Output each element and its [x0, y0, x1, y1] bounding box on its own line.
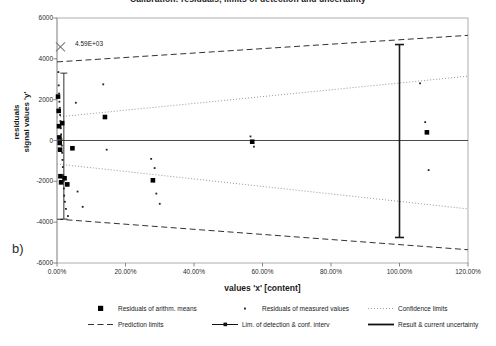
legend-item-label: Residuals of arithm. means: [118, 305, 197, 312]
band-dotted-lower: [57, 164, 468, 209]
legend-item-label: Prediction limits: [118, 321, 164, 328]
dot-marker-icon: [232, 304, 258, 313]
data-point-arithmetic-mean: [58, 147, 63, 152]
chart-legend: Residuals of arithm. meansResiduals of m…: [0, 303, 496, 337]
legend-item-label: Lim. of detection & conf. interv: [242, 321, 329, 328]
data-point-measured-value: [428, 169, 430, 171]
data-point-measured-value: [62, 166, 64, 168]
data-point-measured-value: [64, 201, 66, 203]
legend-item[interactable]: Residuals of arithm. means: [88, 304, 197, 313]
legend-item[interactable]: Prediction limits: [88, 320, 164, 329]
data-point-measured-value: [59, 114, 61, 116]
legend-item-label: Confidence limits: [398, 305, 448, 312]
data-point-measured-value: [57, 71, 59, 73]
data-point-arithmetic-mean: [103, 115, 108, 120]
data-point-measured-value: [65, 208, 67, 210]
y-axis-tick-label: 4000: [19, 55, 53, 62]
y-axis-tick-label: 6000: [19, 14, 53, 21]
y-axis-tick-label: -4000: [19, 218, 53, 225]
data-point-measured-value: [419, 82, 421, 84]
data-point-arithmetic-mean: [62, 176, 67, 181]
x-axis-tick-label: 120.00%: [442, 268, 494, 275]
dashed-line-icon: [88, 320, 114, 329]
capped-line-icon: [212, 320, 238, 329]
chart-figure: Calibration: residuals, limits of detect…: [0, 0, 496, 346]
band-dashed-upper: [57, 35, 468, 62]
data-point-measured-value: [61, 152, 63, 154]
data-point-arithmetic-mean: [58, 174, 63, 179]
data-point-measured-value: [77, 191, 79, 193]
legend-item[interactable]: Lim. of detection & conf. interv: [212, 320, 329, 329]
data-point-measured-value: [58, 84, 60, 86]
data-point-arithmetic-mean: [250, 139, 255, 144]
data-point-measured-value: [67, 215, 69, 217]
y-axis-tick-label: 2000: [19, 96, 53, 103]
data-point-measured-value: [75, 102, 77, 104]
x-axis-tick-label: 100.00%: [374, 268, 426, 275]
x-axis-tick-label: 0.00%: [31, 268, 83, 275]
data-point-measured-value: [106, 149, 108, 151]
data-point-measured-value: [63, 188, 65, 190]
data-point-measured-value: [159, 203, 161, 205]
data-point-measured-value: [60, 127, 62, 129]
data-point-arithmetic-mean: [425, 130, 430, 135]
band-dotted-upper: [57, 76, 468, 117]
data-point-measured-value: [62, 174, 64, 176]
dotted-line-icon: [368, 304, 394, 313]
data-point-measured-value: [154, 167, 156, 169]
data-point-arithmetic-mean: [151, 178, 156, 183]
x-axis-tick-label: 60.00%: [237, 268, 289, 275]
data-point-measured-value: [63, 195, 65, 197]
data-point-measured-value: [60, 133, 62, 135]
data-point-measured-value: [155, 193, 157, 195]
data-point-measured-value: [150, 158, 152, 160]
data-point-arithmetic-mean: [70, 146, 75, 151]
legend-item-label: Result & current uncertainty: [398, 321, 478, 328]
data-point-measured-value: [63, 180, 65, 182]
data-point-arithmetic-mean: [56, 109, 61, 114]
data-point-measured-value: [82, 206, 84, 208]
plot-canvas: [0, 0, 496, 346]
data-point-measured-value: [61, 138, 63, 140]
thick-capped-line-icon: [368, 320, 394, 329]
x-axis-tick-label: 80.00%: [305, 268, 357, 275]
data-point-measured-value: [62, 159, 64, 161]
data-point-arithmetic-mean: [57, 141, 62, 146]
data-point-measured-value: [102, 83, 104, 85]
data-point-measured-value: [60, 120, 62, 122]
data-point-arithmetic-mean: [65, 182, 70, 187]
legend-item[interactable]: Result & current uncertainty: [368, 320, 478, 329]
y-axis-tick-label: -6000: [19, 259, 53, 266]
y-axis-tick-label: 0: [19, 137, 53, 144]
data-point-measured-value: [59, 101, 61, 103]
data-point-measured-value: [59, 107, 61, 109]
square-marker-icon: [88, 304, 114, 313]
x-axis-tick-label: 40.00%: [168, 268, 220, 275]
x-axis-tick-label: 20.00%: [100, 268, 152, 275]
legend-item[interactable]: Confidence limits: [368, 304, 448, 313]
band-dashed-lower: [57, 219, 468, 250]
y-axis-tick-label: -2000: [19, 177, 53, 184]
data-point-arithmetic-mean: [56, 94, 61, 99]
legend-item-label: Residuals of measured values: [262, 305, 349, 312]
data-point-measured-value: [253, 146, 255, 148]
data-point-measured-value: [61, 145, 63, 147]
data-point-measured-value: [58, 93, 60, 95]
legend-item[interactable]: Residuals of measured values: [232, 304, 349, 313]
data-point-measured-value: [250, 136, 252, 138]
data-point-measured-value: [424, 121, 426, 123]
